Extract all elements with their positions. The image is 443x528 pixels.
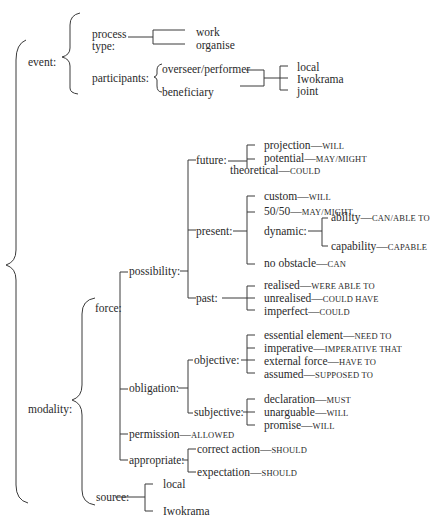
appropriate-label: appropriate: [129,454,185,466]
event-brace [62,13,80,94]
participants-label: participants: [92,72,149,84]
future-item: projection—WILL [264,139,344,152]
permission-item: permission—ALLOWED [129,428,234,441]
subjective-item: declaration—MUST [264,393,351,406]
process-type-label-2: type: [92,40,115,52]
subjective-item: unarguable—WILL [264,406,348,419]
obligation-label: obligation: [129,382,179,394]
event-label: event: [28,56,56,68]
role-beneficiary: beneficiary [162,86,214,98]
objective-item: imperative—IMPERATIVE THAT [264,342,402,355]
past-label: past: [196,292,218,304]
source-option-local: local [163,478,185,490]
past-item: imperfect—COULD [264,305,350,318]
role-overseer-performer: overseer/performer [162,63,250,75]
source-option-iwokrama: Iwokrama [163,505,210,517]
present-item: no obstacle—CAN [264,257,346,270]
objective-label: objective: [194,354,239,366]
present-item: custom—WILL [264,190,331,203]
objective-item: external force—HAVE TO [264,355,376,368]
root-brace [6,40,28,503]
appropriate-item: expectation—SHOULD [197,466,297,479]
subjective-item: promise—WILL [264,419,335,432]
dynamic-item: ability—CAN/ABLE TO [331,211,430,224]
present-label: present: [196,225,232,237]
possibility-label: possibility: [129,265,180,277]
past-item: unrealised—COULD HAVE [264,292,379,305]
participant-option-local: local [297,61,319,73]
objective-item: essential element—NEED TO [264,329,392,342]
participant-option-iwokrama: Iwokrama [297,73,344,85]
process-option-organise: organise [196,39,235,51]
future-label: future: [196,154,227,166]
source-label: source: [96,491,129,503]
objective-item: assumed—SUPPOSED TO [264,368,373,381]
modality-brace [72,298,95,505]
future-item: theoretical—COULD [230,164,320,177]
participant-option-joint: joint [297,85,318,97]
appropriate-item: correct action—SHOULD [197,443,307,456]
dynamic-label: dynamic: [264,225,307,237]
dynamic-item: capability—CAPABLE [331,240,427,253]
process-type-label-1: process [92,28,127,40]
past-item: realised—WERE ABLE TO [264,279,375,292]
process-option-work: work [196,26,220,38]
modality-label: modality: [28,403,72,415]
subjective-label: subjective: [194,406,244,418]
force-label: force: [95,302,122,314]
